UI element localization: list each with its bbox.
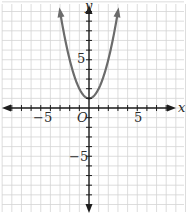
y-axis-label: y — [84, 0, 93, 13]
curve-right-arrow-icon — [114, 7, 121, 17]
axis-labels: x y O −5 5 5 −5 — [33, 0, 186, 164]
axes — [2, 5, 176, 213]
coordinate-plane: x y O −5 5 5 −5 — [0, 0, 188, 220]
x-axis-right-arrow-icon — [167, 105, 176, 112]
grid-lines — [2, 2, 186, 212]
curve-left-arrow-icon — [58, 7, 65, 17]
y-tick-label-5: 5 — [77, 51, 85, 66]
y-tick-label-neg5: −5 — [69, 149, 88, 164]
x-axis-label: x — [178, 100, 186, 115]
x-axis-left-arrow-icon — [2, 105, 11, 112]
y-axis-down-arrow-icon — [86, 204, 93, 213]
x-tick-label-5: 5 — [134, 110, 142, 125]
x-tick-label-neg5: −5 — [33, 110, 52, 125]
origin-label: O — [77, 110, 88, 125]
